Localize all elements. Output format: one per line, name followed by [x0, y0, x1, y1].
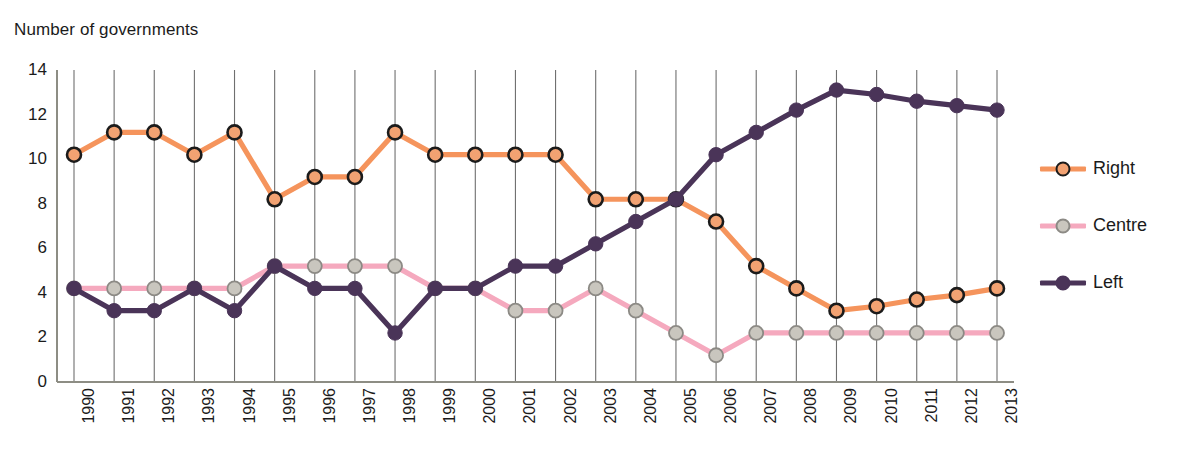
data-point[interactable] [549, 148, 563, 162]
data-point[interactable] [428, 148, 442, 162]
data-point[interactable] [749, 125, 763, 139]
data-point[interactable] [388, 125, 402, 139]
data-point[interactable] [990, 281, 1004, 295]
data-point[interactable] [910, 293, 924, 307]
data-point[interactable] [388, 259, 402, 273]
data-point[interactable] [107, 125, 121, 139]
data-point[interactable] [227, 303, 241, 317]
x-axis-tick-label: 2003 [602, 388, 620, 424]
legend-item-centre[interactable]: Centre [1040, 197, 1177, 254]
data-point[interactable] [228, 281, 242, 295]
x-axis-tick-label: 1998 [401, 388, 419, 424]
data-point[interactable] [428, 281, 442, 295]
data-point[interactable] [67, 281, 81, 295]
data-point[interactable] [468, 281, 482, 295]
data-point[interactable] [348, 170, 362, 184]
x-axis-tick-label: 2009 [842, 388, 860, 424]
x-axis-tick-label: 2000 [481, 388, 499, 424]
data-point[interactable] [187, 148, 201, 162]
y-axis-tick-label: 6 [38, 238, 47, 258]
x-axis-tick-label: 1990 [80, 388, 98, 424]
y-axis-tick-label: 4 [38, 283, 47, 303]
x-axis-tick-label: 2007 [762, 388, 780, 424]
data-point[interactable] [870, 326, 884, 340]
x-axis-tick-label: 1994 [241, 388, 259, 424]
x-axis-tick-label: 2011 [923, 388, 941, 422]
data-point[interactable] [548, 259, 562, 273]
data-point[interactable] [709, 215, 723, 229]
x-axis-tick-label: 1997 [361, 388, 379, 424]
data-point[interactable] [589, 192, 603, 206]
data-point[interactable] [348, 281, 362, 295]
legend-item-left[interactable]: Left [1040, 254, 1177, 311]
series-left [67, 83, 1004, 340]
data-point[interactable] [950, 98, 964, 112]
data-point[interactable] [910, 94, 924, 108]
data-point[interactable] [870, 299, 884, 313]
chart-legend: Right Centre Left [1040, 140, 1177, 311]
data-point[interactable] [147, 125, 161, 139]
y-axis-tick-label: 8 [38, 194, 47, 214]
data-point[interactable] [789, 103, 803, 117]
legend-label-right: Right [1093, 158, 1135, 179]
data-point[interactable] [629, 214, 643, 228]
data-point[interactable] [268, 192, 282, 206]
legend-label-left: Left [1093, 272, 1123, 293]
series-centre [67, 259, 1004, 362]
y-axis-tick-labels: 02468101214 [0, 70, 47, 382]
series-line-right [74, 132, 997, 310]
data-point[interactable] [669, 192, 683, 206]
line-chart-svg [57, 70, 1014, 382]
x-axis-tick-label: 2012 [963, 388, 981, 424]
data-point[interactable] [107, 303, 121, 317]
y-axis-tick-label: 2 [38, 327, 47, 347]
legend-marker-left-icon [1040, 273, 1086, 293]
data-point[interactable] [990, 103, 1004, 117]
data-point[interactable] [669, 326, 683, 340]
data-point[interactable] [829, 326, 843, 340]
data-point[interactable] [267, 259, 281, 273]
data-point[interactable] [709, 348, 723, 362]
data-point[interactable] [549, 304, 563, 318]
data-point[interactable] [749, 259, 763, 273]
data-point[interactable] [348, 259, 362, 273]
data-point[interactable] [508, 259, 522, 273]
data-point[interactable] [187, 281, 201, 295]
legend-item-right[interactable]: Right [1040, 140, 1177, 197]
data-point[interactable] [709, 147, 723, 161]
data-point[interactable] [308, 259, 322, 273]
data-point[interactable] [990, 326, 1004, 340]
series-line-left [74, 90, 997, 333]
data-point[interactable] [589, 281, 603, 295]
data-point[interactable] [829, 304, 843, 318]
data-point[interactable] [910, 326, 924, 340]
data-point[interactable] [629, 304, 643, 318]
data-point[interactable] [829, 83, 843, 97]
data-point[interactable] [589, 237, 603, 251]
data-point[interactable] [508, 304, 522, 318]
x-axis-tick-label: 2006 [722, 388, 740, 424]
plot-area [57, 70, 1014, 382]
x-axis-tick-label: 2010 [883, 388, 901, 424]
data-point[interactable] [147, 281, 161, 295]
x-axis-tick-labels: 1990199119921993199419951996199719981999… [57, 386, 1014, 451]
data-point[interactable] [950, 326, 964, 340]
data-point[interactable] [308, 281, 322, 295]
data-point[interactable] [869, 87, 883, 101]
data-point[interactable] [749, 326, 763, 340]
y-axis-tick-label: 10 [28, 149, 47, 169]
data-point[interactable] [147, 303, 161, 317]
legend-marker-right-icon [1040, 159, 1086, 179]
data-point[interactable] [107, 281, 121, 295]
data-point[interactable] [308, 170, 322, 184]
legend-marker-centre-icon [1040, 216, 1086, 236]
data-point[interactable] [508, 148, 522, 162]
data-point[interactable] [629, 192, 643, 206]
data-point[interactable] [388, 326, 402, 340]
data-point[interactable] [468, 148, 482, 162]
data-point[interactable] [789, 281, 803, 295]
data-point[interactable] [950, 288, 964, 302]
data-point[interactable] [67, 148, 81, 162]
data-point[interactable] [228, 125, 242, 139]
data-point[interactable] [789, 326, 803, 340]
